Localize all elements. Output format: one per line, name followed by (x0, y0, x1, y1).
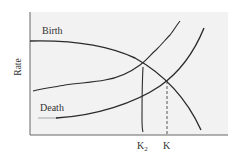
k2-tick-label: K2 (137, 140, 148, 153)
birth-label: Birth (42, 25, 63, 36)
k-tick-label: K (163, 140, 171, 151)
chart: Birth Death Rate K2 K (0, 0, 233, 154)
y-axis-label: Rate (13, 58, 23, 75)
death-label: Death (40, 102, 64, 113)
k2-subscript: 2 (144, 145, 148, 153)
